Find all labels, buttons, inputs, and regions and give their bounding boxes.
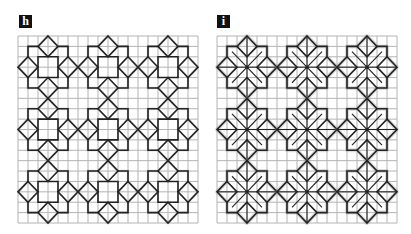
tiling-diagram-h <box>18 36 198 223</box>
motif <box>217 98 277 160</box>
grid-lines <box>18 36 198 223</box>
motif <box>337 98 397 160</box>
tiling-diagram-i <box>217 36 397 223</box>
motif <box>277 36 337 98</box>
motif <box>337 161 397 223</box>
panel-label-i: i <box>217 15 230 28</box>
motif <box>217 36 277 98</box>
motif <box>277 161 337 223</box>
panel-h <box>18 36 198 223</box>
center-dot <box>305 66 308 69</box>
center-dot <box>365 190 368 193</box>
panel-i <box>217 36 397 223</box>
center-dot <box>305 190 308 193</box>
center-dot <box>365 128 368 131</box>
motif <box>337 36 397 98</box>
center-dot <box>245 190 248 193</box>
motif <box>217 161 277 223</box>
center-dot <box>245 128 248 131</box>
center-dot <box>245 66 248 69</box>
center-dot <box>305 128 308 131</box>
motif <box>277 98 337 160</box>
panel-label-h: h <box>19 15 32 28</box>
center-dot <box>365 66 368 69</box>
